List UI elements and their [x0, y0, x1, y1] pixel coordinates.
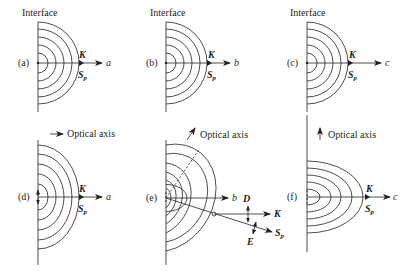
s-label-f: Sp: [365, 203, 375, 216]
s-label-e: Sp: [275, 227, 285, 240]
k-label-b: K: [207, 49, 216, 60]
birefringence-wavefront-diagram: Interface Interface Interface Optical ax…: [0, 0, 406, 272]
s-label-b: Sp: [207, 69, 217, 82]
optical-axis-label-1: Optical axis: [67, 128, 115, 139]
e-label-e: E: [246, 236, 254, 247]
panel-b: [165, 22, 230, 112]
panel-d: [38, 140, 102, 265]
axis-label-a: a: [106, 57, 111, 68]
panel-c: [306, 22, 381, 112]
axis-label-c: c: [385, 57, 390, 68]
k-label-d: K: [78, 183, 87, 194]
d-label-e: D: [242, 193, 250, 204]
axis-label-e: b: [232, 192, 237, 203]
panel-a: [37, 22, 102, 112]
k-label-c: K: [348, 49, 357, 60]
k-label-a: K: [78, 49, 87, 60]
s-label-d: Sp: [78, 203, 88, 216]
optical-axis-arrow-diagonal: [187, 128, 195, 140]
interface-label-c: Interface: [290, 7, 326, 18]
panel-label-b: (b): [146, 57, 158, 69]
optical-axis-label-2: Optical axis: [200, 129, 248, 140]
panel-e: [153, 140, 272, 265]
k-label-f: K: [365, 183, 374, 194]
k-label-e: K: [273, 208, 282, 219]
panel-label-e: (e): [146, 192, 157, 204]
s-label-c: Sp: [348, 69, 358, 82]
panel-label-d: (d): [18, 191, 30, 203]
interface-label-b: Interface: [150, 7, 186, 18]
axis-label-f: c: [393, 191, 398, 202]
panel-label-c: (c): [287, 57, 298, 69]
interface-label-a: Interface: [22, 7, 58, 18]
panel-label-a: (a): [18, 57, 29, 69]
optical-axis-label-3: Optical axis: [328, 129, 376, 140]
panel-label-f: (f): [287, 191, 297, 203]
s-label-a: Sp: [78, 69, 88, 82]
axis-label-d: a: [106, 191, 111, 202]
axis-label-b: b: [234, 57, 239, 68]
